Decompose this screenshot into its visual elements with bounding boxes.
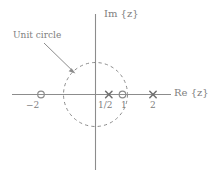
tick-label-one: 1 bbox=[121, 101, 127, 110]
tick-label-two: 2 bbox=[150, 101, 156, 110]
pole-zero-figure: Im {z} Re {z} Unit circle −2 1/2 1 2 bbox=[0, 0, 209, 179]
imaginary-axis-label: Im {z} bbox=[104, 9, 139, 19]
tick-label-one-half: 1/2 bbox=[98, 101, 112, 110]
real-axis-label: Re {z} bbox=[174, 88, 209, 98]
tick-label-minus-2: −2 bbox=[26, 101, 39, 110]
unit-circle-annotation-label: Unit circle bbox=[13, 31, 61, 40]
unit-circle-arrow bbox=[44, 43, 76, 74]
